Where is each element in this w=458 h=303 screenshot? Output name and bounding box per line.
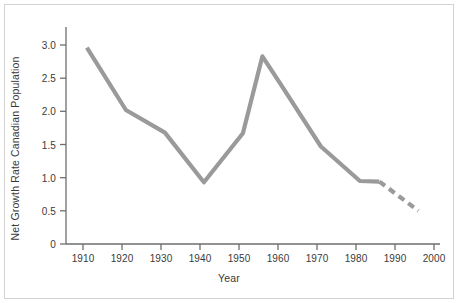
y-tick-label-1-5: 1.5 — [30, 139, 56, 150]
y-tick-label-1-0: 1.0 — [30, 172, 56, 183]
x-tick-label-1940: 1940 — [180, 253, 220, 264]
y-tick-label-0: 0 — [36, 239, 56, 250]
series-projected-line — [379, 182, 418, 211]
x-tick-label-1980: 1980 — [336, 253, 376, 264]
x-tick-label-1990: 1990 — [375, 253, 415, 264]
y-tick-label-0-5: 0.5 — [30, 205, 56, 216]
y-tick-label-2-0: 2.0 — [30, 106, 56, 117]
x-tick-label-1930: 1930 — [141, 253, 181, 264]
x-tick-label-1960: 1960 — [258, 253, 298, 264]
x-axis-ticks — [83, 244, 434, 250]
x-tick-label-1950: 1950 — [219, 253, 259, 264]
series-observed-line — [87, 48, 380, 183]
x-axis-title: Year — [0, 272, 458, 284]
x-tick-label-1910: 1910 — [63, 253, 103, 264]
x-tick-label-1970: 1970 — [297, 253, 337, 264]
y-tick-label-3-0: 3.0 — [30, 40, 56, 51]
figure-container: 0 0.5 1.0 1.5 2.0 2.5 3.0 1910 1920 1930… — [0, 0, 458, 303]
x-tick-label-2000: 2000 — [414, 253, 454, 264]
x-tick-label-1920: 1920 — [102, 253, 142, 264]
y-tick-label-2-5: 2.5 — [30, 73, 56, 84]
y-axis-ticks — [60, 45, 66, 244]
